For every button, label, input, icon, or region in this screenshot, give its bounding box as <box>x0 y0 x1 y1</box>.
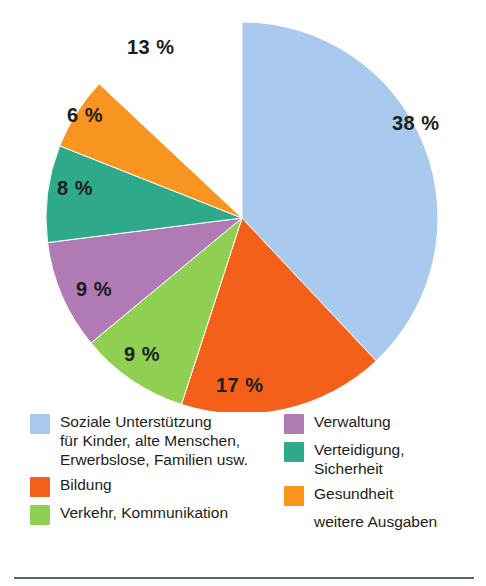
legend-color-swatch <box>284 486 304 506</box>
legend-item[interactable]: Verwaltung <box>284 412 480 434</box>
bottom-divider <box>14 577 474 579</box>
pie-slices-group <box>46 22 438 412</box>
pie-label-8: 8 % <box>57 177 93 200</box>
legend-item-label: Gesundheit <box>314 484 393 503</box>
legend-item-label: Verkehr, Kommunikation <box>60 503 228 522</box>
legend-item-label: Verteidigung, Sicherheit <box>314 440 405 478</box>
legend-item[interactable]: Gesundheit <box>284 484 480 506</box>
legend-color-swatch <box>284 442 304 462</box>
chart-legend: Soziale Unterstützung für Kinder, alte M… <box>0 412 486 568</box>
pie-chart-area: 38 % 17 % 9 % 9 % 8 % 6 % 13 % <box>0 0 486 412</box>
legend-item-label: Bildung <box>60 475 112 494</box>
pie-label-38: 38 % <box>392 112 440 135</box>
legend-column-right: VerwaltungVerteidigung, SicherheitGesund… <box>284 412 480 540</box>
pie-label-9-verwaltung: 9 % <box>76 278 112 301</box>
legend-color-swatch <box>30 505 50 525</box>
legend-color-swatch <box>284 414 304 434</box>
legend-color-swatch <box>284 514 304 534</box>
legend-item[interactable]: Soziale Unterstützung für Kinder, alte M… <box>30 412 280 469</box>
pie-label-13: 13 % <box>127 36 175 59</box>
legend-item[interactable]: Verteidigung, Sicherheit <box>284 440 480 478</box>
legend-color-swatch <box>30 477 50 497</box>
legend-column-left: Soziale Unterstützung für Kinder, alte M… <box>30 412 280 531</box>
legend-item[interactable]: Bildung <box>30 475 280 497</box>
pie-label-17: 17 % <box>216 374 264 397</box>
legend-item[interactable]: weitere Ausgaben <box>284 512 480 534</box>
legend-item-label: Soziale Unterstützung für Kinder, alte M… <box>60 412 248 469</box>
pie-label-6: 6 % <box>67 104 103 127</box>
legend-item-label: weitere Ausgaben <box>314 512 437 531</box>
legend-item-label: Verwaltung <box>314 412 391 431</box>
pie-label-9-verkehr: 9 % <box>124 343 160 366</box>
pie-chart-svg <box>0 0 486 412</box>
legend-item[interactable]: Verkehr, Kommunikation <box>30 503 280 525</box>
legend-color-swatch <box>30 414 50 434</box>
